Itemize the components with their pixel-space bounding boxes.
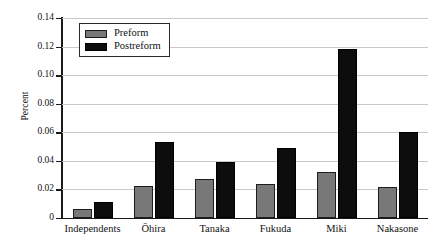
y-tick-label: 0.14 (2, 13, 54, 23)
bar-preform (378, 187, 397, 218)
y-tick-label: 0.06 (2, 127, 54, 137)
bar-preform (256, 184, 275, 218)
legend-label-preform: Preform (114, 28, 148, 39)
bar-postreform (94, 202, 113, 218)
bar-postreform (399, 132, 418, 218)
legend-item-postreform: Postreform (85, 40, 161, 53)
bar-preform (195, 179, 214, 218)
y-tick-label-wrap: 0 (0, 213, 54, 223)
y-tick-label: 0.02 (2, 184, 54, 194)
y-tick-label: 0.12 (2, 42, 54, 52)
legend-item-preform: Preform (85, 27, 161, 40)
chart-legend: Preform Postreform (79, 23, 170, 57)
bar-preform (73, 209, 92, 218)
legend-label-postreform: Postreform (114, 41, 161, 52)
y-tick-label: 0.08 (2, 99, 54, 109)
y-tick-label-wrap: 0.08 (0, 99, 54, 109)
black-swatch-icon (85, 43, 107, 51)
bar-preform (134, 186, 153, 218)
y-tick-label-wrap: 0.14 (0, 13, 54, 23)
y-tick-label-wrap: 0.10 (0, 70, 54, 80)
y-tick-label-wrap: 0.06 (0, 127, 54, 137)
bar-postreform (338, 49, 357, 218)
x-category-label: Nakasone (355, 223, 437, 235)
bar-postreform (155, 142, 174, 218)
gridline (62, 18, 428, 19)
y-tick-label: 0.04 (2, 156, 54, 166)
y-tick-label-wrap: 0.04 (0, 156, 54, 166)
bar-postreform (216, 162, 235, 218)
bar-chart-figure: Percent 00.020.040.060.080.100.120.14 In… (0, 0, 437, 244)
y-tick-label-wrap: 0.02 (0, 184, 54, 194)
gridline (62, 75, 428, 76)
gridline (62, 104, 428, 105)
gray-swatch-icon (85, 30, 107, 38)
y-tick-label: 0.10 (2, 70, 54, 80)
bar-preform (317, 172, 336, 218)
y-tick-mark (56, 218, 62, 219)
gridline (62, 132, 428, 133)
gridline (62, 189, 428, 190)
y-tick-label: 0 (2, 213, 54, 223)
bar-postreform (277, 148, 296, 218)
gridline (62, 161, 428, 162)
y-tick-label-wrap: 0.12 (0, 42, 54, 52)
